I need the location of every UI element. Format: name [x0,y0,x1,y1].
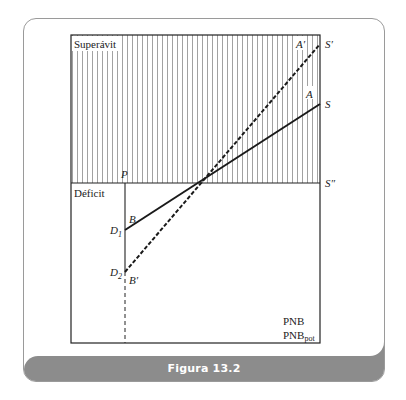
x-axis-label-pnb: PNB [283,315,304,327]
surplus-region [71,35,320,183]
point-d2-label: D2 [109,266,122,281]
point-p-label: P [120,168,128,180]
diagram-canvas: Superávit Déficit A′ S′ A S S″ P B B′ D1… [0,0,406,400]
point-s-prime-label: S′ [325,38,334,50]
point-s-label: S [325,98,331,110]
point-d1-label: D1 [109,224,122,239]
surplus-label: Superávit [74,38,116,50]
point-b-prime-label: B′ [129,274,139,286]
point-a-prime-label: A′ [295,38,306,50]
point-s-double-prime-label: S″ [325,177,336,189]
x-axis-label-pnb-pot: PNBpot [283,329,315,343]
point-a-label: A [305,88,313,100]
deficit-label: Déficit [74,187,105,199]
point-b-label: B [129,213,136,225]
